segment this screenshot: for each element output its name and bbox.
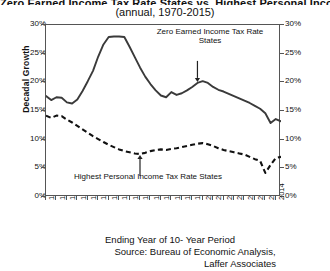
annotation-zero-earned-label: Zero Earned Income Tax Rate States <box>140 27 280 45</box>
y-tick-label-right: 0% <box>285 192 297 200</box>
y-tick-label-right: 25% <box>285 49 301 57</box>
line-zero-earned-income-tax-rate-states <box>46 36 281 123</box>
y-tick-label-right: 20% <box>285 77 301 85</box>
annotation-top-line1: Zero Earned Income Tax Rate <box>157 27 264 36</box>
y-tick-label-right: 15% <box>285 106 301 114</box>
annotation-top-line2: States <box>140 36 280 45</box>
plot-area <box>45 24 280 196</box>
y-tick-label-right: 10% <box>285 135 301 143</box>
annotation-arrow-down <box>195 61 200 82</box>
annotation-highest-personal-label: Highest Personal Income Tax Rate States <box>48 172 248 181</box>
chart-title: Zero Earned Income Tax Rate States vs. H… <box>0 0 330 5</box>
chart-subtitle: (annual, 1970-2015) <box>0 6 330 19</box>
chart-title-block: Zero Earned Income Tax Rate States vs. H… <box>0 0 330 19</box>
chart-container: Zero Earned Income Tax Rate States vs. H… <box>0 0 330 271</box>
source-line-1: Source: Bureau of Economic Analysis, <box>0 246 330 258</box>
chart-footer: Ending Year of 10- Year Period Source: B… <box>0 234 330 270</box>
line-highest-personal-income-tax-rate-states <box>46 116 281 173</box>
y-tick-label-right: 30% <box>285 20 301 28</box>
source-line-2: Laffer Associates <box>0 258 330 270</box>
y-tick-label-right: 5% <box>285 163 297 171</box>
x-axis-caption: Ending Year of 10- Year Period <box>0 234 330 246</box>
